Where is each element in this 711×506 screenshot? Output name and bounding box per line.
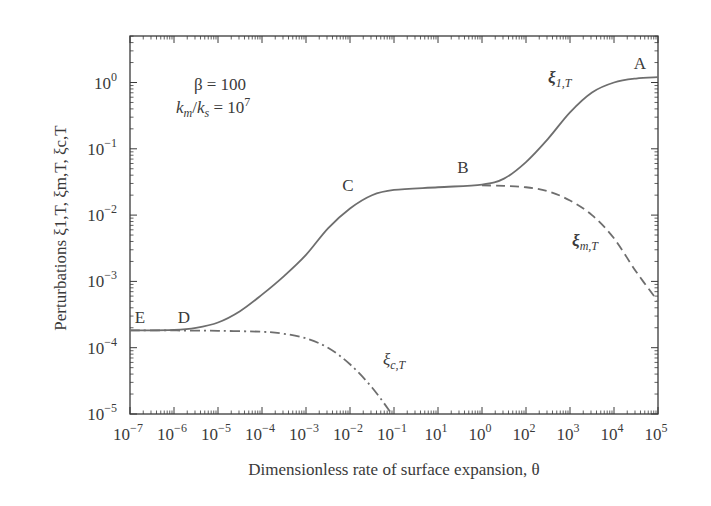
- x-tick-label: 10−6: [157, 421, 187, 444]
- point-label-a: A: [634, 54, 647, 73]
- y-tick-label: 10−3: [87, 268, 117, 291]
- point-label-c: C: [342, 176, 353, 195]
- x-tick-label: 10−5: [201, 421, 231, 444]
- x-tick-label: 101: [425, 421, 448, 444]
- series-label-xi-1t: ξ1,T: [548, 68, 573, 90]
- x-tick-label: 102: [513, 421, 536, 444]
- x-tick-label: 10−4: [245, 421, 275, 444]
- point-label-b: B: [457, 158, 468, 177]
- series-curve-xi-mt: [482, 185, 658, 301]
- x-tick-label: 10−1: [377, 421, 407, 444]
- x-tick-label: 103: [557, 421, 580, 444]
- x-axis-title: Dimensionless rate of surface expansion,…: [248, 460, 539, 479]
- y-tick-label: 10−1: [87, 136, 117, 159]
- series-label-xi-mt: ξm,T: [572, 231, 599, 253]
- point-label-d: D: [178, 308, 190, 327]
- y-axis-tick-labels: 10010−110−210−310−410−5: [87, 70, 117, 425]
- parameter-km-ks: km/ks = 107: [176, 95, 250, 120]
- x-tick-label: 10−3: [289, 421, 319, 444]
- y-tick-label: 10−4: [87, 335, 117, 358]
- point-label-e: E: [135, 308, 145, 327]
- x-tick-label: 10−2: [333, 421, 363, 444]
- x-tick-label: 105: [645, 421, 668, 444]
- x-tick-label: 100: [469, 421, 492, 444]
- x-axis-tick-labels: 10−710−610−510−410−310−210−1101100102103…: [113, 421, 667, 444]
- y-tick-label: 100: [94, 70, 117, 93]
- x-tick-label: 104: [601, 421, 624, 444]
- x-tick-label: 10−7: [113, 421, 143, 444]
- y-axis-title: Perturbations ξ1,T, ξm,T, ξc,T: [51, 125, 70, 331]
- y-tick-label: 10−5: [87, 401, 117, 424]
- chart: 10−710−610−510−410−310−210−1101100102103…: [0, 0, 711, 506]
- y-tick-label: 10−2: [87, 202, 117, 225]
- series-label-xi-ct: ξc,T: [383, 350, 407, 372]
- series-curve-xi-ct: [130, 330, 392, 414]
- parameter-beta: β = 100: [194, 75, 246, 94]
